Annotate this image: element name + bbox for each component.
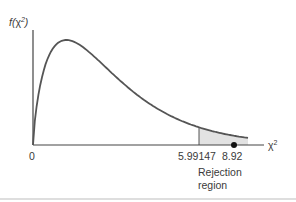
- annotation-line-1: Rejection: [198, 166, 242, 178]
- chi-square-chart: f(χ2) χ2 0 5.99147 8.92 Rejection region: [0, 0, 296, 202]
- tick-label-statistic: 8.92: [222, 150, 243, 162]
- x-axis-label: χ2: [268, 139, 278, 151]
- y-axis-label: f(χ2): [9, 16, 28, 28]
- density-curve: [33, 40, 248, 145]
- annotation-line-2: region: [198, 179, 227, 191]
- test-statistic-point: [231, 142, 237, 148]
- tick-label-0: 0: [29, 150, 35, 162]
- tick-label-critical: 5.99147: [178, 150, 216, 162]
